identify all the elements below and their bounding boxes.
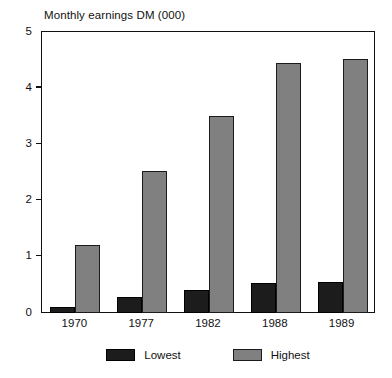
- bar-1970-highest: [75, 245, 100, 312]
- y-axis: 012345: [0, 31, 41, 313]
- y-axis-tick: 3: [0, 136, 41, 150]
- y-axis-tick-label: 2: [26, 192, 32, 206]
- legend-item-highest: Highest: [233, 349, 310, 362]
- y-axis-tick-label: 3: [26, 136, 32, 150]
- x-axis-tick-label: 1988: [241, 316, 308, 331]
- legend-label: Lowest: [144, 349, 180, 362]
- bar-1977-lowest: [117, 297, 142, 312]
- y-axis-tick: 0: [0, 305, 41, 319]
- y-axis-tick-label: 5: [26, 24, 32, 38]
- chart-title: Monthly earnings DM (000): [44, 8, 185, 22]
- x-axis-tick-label: 1989: [308, 316, 375, 331]
- bar-1977-highest: [142, 171, 167, 313]
- y-axis-tick-label: 0: [26, 305, 32, 319]
- y-axis-tick: 2: [0, 192, 41, 206]
- bar-1982-lowest: [184, 290, 209, 312]
- y-axis-tick: 1: [0, 248, 41, 262]
- legend-label: Highest: [271, 349, 310, 362]
- x-axis: 19701977198219881989: [41, 316, 375, 336]
- bar-1989-lowest: [318, 282, 343, 313]
- chart-legend: LowestHighest: [41, 344, 375, 366]
- x-axis-tick-label: 1970: [41, 316, 108, 331]
- bar-1988-lowest: [251, 283, 276, 313]
- bar-1982-highest: [209, 116, 234, 312]
- x-axis-tick-label: 1977: [108, 316, 175, 331]
- legend-item-lowest: Lowest: [106, 349, 180, 362]
- y-axis-tick: 5: [0, 24, 41, 38]
- plot-area: [41, 31, 375, 313]
- legend-swatch-lowest: [106, 349, 135, 361]
- y-axis-tick-label: 4: [26, 80, 32, 94]
- bar-1989-highest: [343, 59, 368, 313]
- y-axis-tick: 4: [0, 80, 41, 94]
- x-axis-tick-label: 1982: [175, 316, 242, 331]
- bar-chart-figure: Monthly earnings DM (000) 012345 1970197…: [0, 0, 392, 378]
- bar-1988-highest: [276, 63, 301, 313]
- bar-1970-lowest: [50, 307, 75, 313]
- bars-layer: [42, 32, 376, 314]
- y-axis-tick-label: 1: [26, 248, 32, 262]
- legend-swatch-highest: [233, 349, 262, 361]
